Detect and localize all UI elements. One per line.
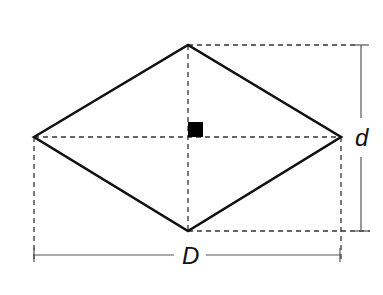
dashed-guides [34,45,370,262]
right-angle-marker [188,122,203,137]
short-diagonal-label: d [355,124,369,151]
rhombus-diagram: d D [0,0,383,295]
long-diagonal-label: D [182,242,199,269]
